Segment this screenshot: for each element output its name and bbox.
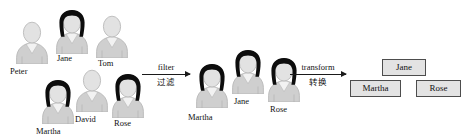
result-box-label-martha: Martha bbox=[363, 84, 389, 93]
filter-arrow-label-zh: 过滤 bbox=[142, 77, 190, 87]
person-label-martha: Martha bbox=[36, 126, 61, 136]
pipeline-diagram: Peter Jane Tom bbox=[0, 0, 472, 138]
result-box-label-rose: Rose bbox=[430, 84, 448, 93]
transform-arrow-line bbox=[290, 74, 346, 75]
person-label-rose: Rose bbox=[270, 104, 287, 114]
person-icon-jane-dark-hair bbox=[228, 48, 268, 98]
person-label-jane: Jane bbox=[57, 53, 72, 63]
person-label-jane: Jane bbox=[234, 96, 249, 106]
result-box-label-jane: Jane bbox=[396, 63, 412, 72]
filter-arrow-label-en: filter bbox=[142, 62, 190, 72]
result-box-rose: Rose bbox=[416, 80, 461, 97]
person-icon-jane-dark-hair bbox=[52, 8, 92, 58]
filter-arrow: filter 过滤 bbox=[142, 62, 190, 88]
person-icon-peter-light-hair bbox=[12, 18, 52, 68]
transform-arrow-label-en: transform bbox=[290, 62, 346, 72]
transform-arrow-label-zh: 转换 bbox=[290, 77, 346, 87]
transform-arrow: transform 转换 bbox=[290, 62, 346, 88]
result-box-jane: Jane bbox=[382, 59, 426, 76]
person-label-martha: Martha bbox=[188, 112, 213, 122]
person-label-david: David bbox=[75, 114, 96, 124]
person-label-rose: Rose bbox=[114, 118, 131, 128]
filter-arrow-line bbox=[142, 74, 190, 75]
result-box-martha: Martha bbox=[350, 80, 401, 97]
person-label-peter: Peter bbox=[10, 66, 27, 76]
person-icon-martha-dark-hair bbox=[192, 62, 232, 112]
person-icon-david-light-hair bbox=[72, 66, 112, 116]
person-icon-tom-light-hair bbox=[92, 12, 132, 62]
